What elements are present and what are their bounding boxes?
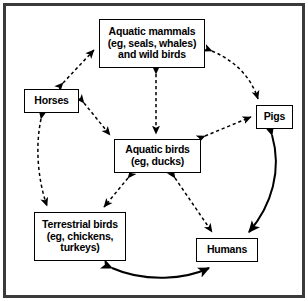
node-label-line: Terrestrial birds: [42, 219, 118, 231]
node-label-line: turkeys): [60, 242, 99, 254]
node-aquatic-birds[interactable]: Aquatic birds (eg, ducks): [114, 139, 201, 173]
node-pigs[interactable]: Pigs: [256, 105, 293, 129]
node-label-line: Humans: [207, 244, 247, 256]
node-label-line: (eg, ducks): [131, 156, 184, 168]
node-aquatic-mammals[interactable]: Aquatic mammals (eg, seals, whales) and …: [99, 19, 205, 68]
node-label-line: Pigs: [264, 111, 285, 123]
edge-aquatic-birds-terrestrial-birds: [104, 178, 128, 207]
edge-aquatic-birds-pigs: [205, 117, 251, 136]
edge-aquatic-birds-humans: [175, 178, 212, 232]
edge-horses-aquatic-mammals: [63, 50, 94, 83]
transmission-diagram: Aquatic mammals (eg, seals, whales) and …: [0, 0, 308, 301]
node-terrestrial-birds[interactable]: Terrestrial birds (eg, chickens, turkeys…: [34, 212, 126, 261]
node-label-line: Aquatic mammals: [109, 26, 196, 38]
edge-horses-terrestrial-birds: [38, 119, 47, 206]
edge-aquatic-mammals-pigs: [212, 51, 258, 99]
node-humans[interactable]: Humans: [196, 238, 258, 262]
edge-pigs-humans: [249, 135, 276, 232]
node-horses[interactable]: Horses: [24, 89, 79, 113]
edge-terrestrial-birds-humans: [112, 268, 209, 278]
node-label-line: and wild birds: [118, 49, 186, 61]
node-label-line: Horses: [34, 95, 68, 107]
edge-horses-aquatic-birds: [84, 103, 110, 135]
